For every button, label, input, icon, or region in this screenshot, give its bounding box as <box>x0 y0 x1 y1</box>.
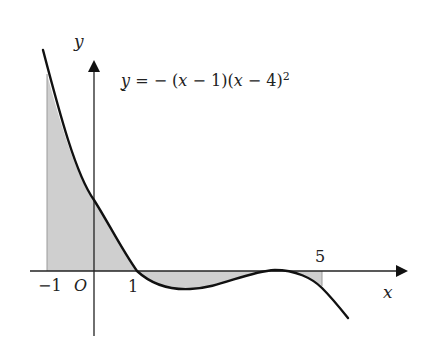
x-axis-arrow-icon <box>396 265 408 277</box>
y-axis-label: y <box>73 31 84 51</box>
tick-label-five: 5 <box>315 247 325 266</box>
x-axis-label: x <box>383 282 393 302</box>
function-graph: y x O −1 1 5 y <box>0 0 422 352</box>
origin-label: O <box>74 276 87 295</box>
equation-prefix: y = − ( <box>121 71 178 90</box>
shaded-area <box>47 74 137 271</box>
equation-mid-2: − 4) <box>243 71 283 90</box>
tick-label-neg-one: −1 <box>38 276 62 295</box>
tick-label-one: 1 <box>128 277 138 296</box>
equation-var-2: x <box>234 71 243 90</box>
equation-exponent: 2 <box>283 70 290 83</box>
equation: y = − (x − 1)(x − 4)2 <box>121 70 290 90</box>
equation-mid-1: − 1)( <box>187 71 233 90</box>
y-axis-arrow-icon <box>88 60 100 72</box>
